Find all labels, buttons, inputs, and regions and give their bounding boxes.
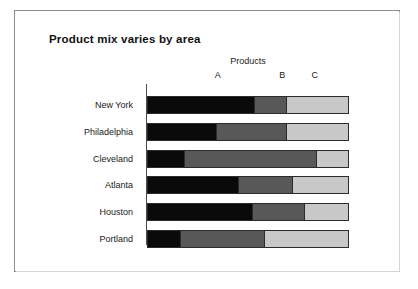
bar-segment-b bbox=[254, 97, 286, 113]
bar-segment-c bbox=[286, 97, 348, 113]
bar-row bbox=[147, 176, 349, 194]
bar-segment-a bbox=[148, 151, 184, 167]
bar-segment-c bbox=[292, 177, 348, 193]
category-axis-labels: New YorkPhiladelphiaClevelandAtlantaHous… bbox=[41, 84, 141, 245]
series-header-a: A bbox=[215, 70, 221, 80]
bar-segment-c bbox=[304, 204, 348, 220]
bar-row bbox=[147, 230, 349, 248]
category-label: Houston bbox=[99, 203, 133, 221]
bars-container bbox=[147, 84, 349, 245]
bar-segment-a bbox=[148, 231, 180, 247]
bar-segment-b bbox=[184, 151, 316, 167]
bar-segment-c bbox=[286, 124, 348, 140]
bar-segment-b bbox=[180, 231, 264, 247]
series-header-c: C bbox=[311, 70, 318, 80]
category-label: New York bbox=[95, 96, 133, 114]
bar-segment-a bbox=[148, 204, 252, 220]
bar-row bbox=[147, 96, 349, 114]
bar-segment-c bbox=[264, 231, 348, 247]
figure-frame: Product mix varies by area Products ABC … bbox=[14, 10, 400, 272]
series-column-headers: ABC bbox=[147, 70, 349, 82]
category-label: Cleveland bbox=[93, 150, 133, 168]
bar-segment-b bbox=[252, 204, 304, 220]
bar-segment-c bbox=[316, 151, 348, 167]
bar-segment-b bbox=[238, 177, 292, 193]
bar-segment-a bbox=[148, 97, 254, 113]
bar-segment-b bbox=[216, 124, 286, 140]
category-label: Philadelphia bbox=[84, 123, 133, 141]
chart-plot-area: Products ABC New YorkPhiladelphiaClevela… bbox=[15, 11, 399, 271]
bar-segment-a bbox=[148, 177, 238, 193]
bar-row bbox=[147, 123, 349, 141]
category-label: Portland bbox=[99, 230, 133, 248]
category-label: Atlanta bbox=[105, 176, 133, 194]
axis-group-label-products: Products bbox=[147, 56, 349, 66]
bar-row bbox=[147, 150, 349, 168]
bar-row bbox=[147, 203, 349, 221]
bar-segment-a bbox=[148, 124, 216, 140]
series-header-b: B bbox=[279, 70, 285, 80]
